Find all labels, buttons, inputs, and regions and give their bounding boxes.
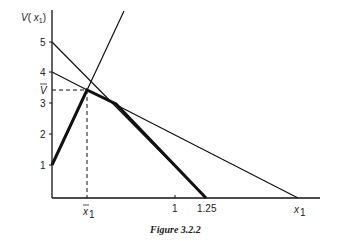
y-tick-1: 1 bbox=[40, 160, 46, 171]
x-tick-1.25: 1.25 bbox=[197, 203, 217, 214]
x-tick-xbar-idx: 1 bbox=[89, 209, 95, 220]
y-tick-3: 3 bbox=[40, 98, 46, 109]
y-tick-5: 5 bbox=[40, 37, 46, 48]
thick-envelope bbox=[52, 90, 206, 198]
y-axis-label-full: V( x1) bbox=[21, 12, 46, 24]
y-tick-2: 2 bbox=[40, 129, 46, 140]
x-tick-x1-idx: 1 bbox=[300, 207, 306, 218]
y-ticks bbox=[49, 42, 175, 198]
x-tick-xbar: x bbox=[82, 206, 89, 217]
figure-caption: Figure 3.2.2 bbox=[149, 224, 201, 235]
x-tick-1: 1 bbox=[172, 203, 178, 214]
x-tick-x1: x bbox=[293, 204, 300, 215]
chart-figure: V( x1) 5 4 V 3 2 1 x 1 1 1.25 x 1 Figure… bbox=[0, 0, 357, 241]
y-tick-4: 4 bbox=[40, 67, 46, 78]
y-tick-vbar: V bbox=[40, 85, 48, 96]
